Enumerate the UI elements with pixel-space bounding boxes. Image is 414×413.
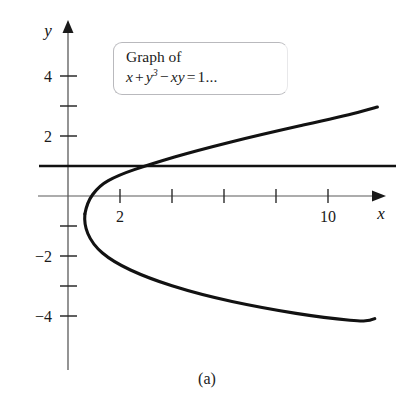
equation-operator-minus: −: [158, 68, 171, 85]
curve-upper-branch: [85, 107, 378, 214]
equation-right-side: 1...: [198, 68, 218, 85]
figure-container: 2 10 4 2 −2 −4 y x Graph of x+y3−xy=1...…: [0, 0, 414, 413]
y-tick-label-minus-4: −4: [35, 308, 52, 325]
y-tick-label-minus-2: −2: [35, 248, 52, 265]
equation-term-y: y: [146, 68, 153, 85]
figure-caption: (a): [0, 370, 414, 388]
callout-line-graph-of: Graph of: [126, 47, 281, 67]
y-axis-arrow-icon: [63, 20, 74, 33]
equation-term-xy: xy: [171, 68, 185, 85]
x-tick-label-10: 10: [320, 208, 336, 225]
y-axis-label: y: [42, 21, 52, 40]
x-axis-arrow-icon: [372, 191, 386, 202]
equation-operator-equals: =: [185, 68, 198, 85]
callout-line-equation: x+y3−xy=1...: [126, 67, 281, 87]
graph-annotation-callout: Graph of x+y3−xy=1...: [113, 42, 288, 95]
x-axis-label: x: [376, 204, 385, 223]
curve-lower-branch: [85, 214, 375, 321]
x-tick-label-2: 2: [116, 208, 124, 225]
y-tick-label-4: 4: [44, 68, 52, 85]
equation-term-x: x: [126, 68, 133, 85]
equation-operator-plus: +: [133, 68, 146, 85]
y-tick-label-2: 2: [44, 128, 52, 145]
